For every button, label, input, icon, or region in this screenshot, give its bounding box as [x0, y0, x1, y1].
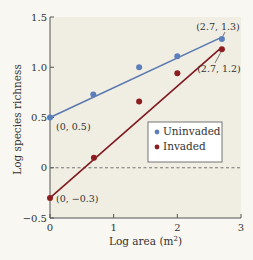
annotation: (2.7, 1.2) — [197, 63, 241, 74]
uninvaded-point — [136, 64, 142, 70]
uninvaded-legend-marker — [155, 130, 160, 135]
annotation: (2.7, 1.3) — [196, 21, 240, 32]
y-tick-label: 1.5 — [31, 12, 47, 23]
invaded-point — [91, 155, 97, 161]
uninvaded-point — [47, 115, 53, 121]
x-tick-label: 3 — [238, 222, 244, 233]
invaded-point — [47, 195, 53, 201]
species-area-chart: −0.500.51.01.50123 (0, 0.5)(0, −0.3)(2.7… — [0, 0, 253, 260]
invaded-point — [219, 46, 225, 52]
uninvaded-point — [219, 36, 225, 42]
x-tick-label: 1 — [110, 222, 116, 233]
y-tick-label: 1.0 — [31, 62, 47, 73]
annotation: (0, −0.3) — [56, 193, 99, 204]
invaded-point — [136, 98, 142, 104]
uninvaded-point — [174, 53, 180, 59]
plot-area — [50, 17, 241, 218]
invaded-point — [174, 70, 180, 76]
x-tick-label: 0 — [47, 222, 53, 233]
y-axis-title: Log species richness — [11, 64, 23, 175]
x-tick-label: 2 — [174, 222, 180, 233]
y-tick-label: 0 — [41, 162, 47, 173]
y-tick-label: 0.5 — [31, 112, 47, 123]
uninvaded-point — [90, 91, 96, 97]
uninvaded-legend-label: Uninvaded — [163, 125, 221, 137]
legend: UninvadedInvaded — [148, 122, 222, 162]
invaded-legend-label: Invaded — [163, 140, 206, 152]
annotation: (0, 0.5) — [56, 121, 91, 132]
x-axis-title: Log area (m2) — [109, 235, 182, 247]
invaded-legend-marker — [155, 145, 160, 150]
y-tick-label: −0.5 — [23, 213, 47, 224]
